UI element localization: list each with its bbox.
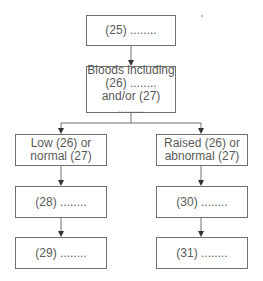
scan-speck [201, 15, 203, 17]
node-30: (30) ........ [156, 186, 248, 218]
node-bloods-line1: Bloods including [87, 64, 174, 77]
node-30-label: (30) ........ [176, 196, 227, 209]
node-25-label: (25) ........ [105, 24, 156, 37]
node-31-label: (31) ........ [176, 247, 227, 260]
node-29: (29) ........ [15, 237, 107, 269]
node-29-label: (29) ........ [35, 247, 86, 260]
node-28: (28) ........ [15, 186, 107, 218]
node-31: (31) ........ [156, 237, 248, 269]
node-bloods-line3: and/or (27) ........ [87, 90, 175, 116]
node-28-label: (28) ........ [35, 196, 86, 209]
node-raised-line2: abnormal (27) [165, 150, 240, 163]
node-low: Low (26) or normal (27) [15, 134, 107, 166]
node-bloods: Bloods including (26) ........ and/or (2… [86, 66, 176, 113]
node-raised: Raised (26) or abnormal (27) [156, 134, 248, 166]
node-25: (25) ........ [86, 15, 176, 46]
node-low-line2: normal (27) [30, 150, 91, 163]
node-bloods-line2: (26) ........ [105, 77, 156, 90]
